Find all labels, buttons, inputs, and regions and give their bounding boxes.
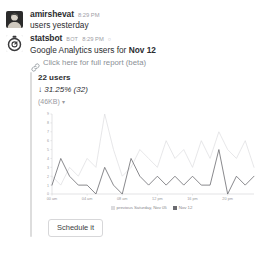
svg-text:5: 5 [47,148,49,152]
svg-text:3: 3 [47,166,49,170]
message-body: amirshevat 8:29 PM users yesterday [30,10,255,32]
chart-legend: previous Saturday, Nov 05 Nov 12 [48,205,255,210]
slack-message-pane: amirshevat 8:29 PM users yesterday stats… [0,0,263,270]
users-line-chart: 012345678900 am04 am08 am12 pm16 pm20 pm [36,110,255,206]
svg-text:20 pm: 20 pm [222,197,233,201]
message-author[interactable]: amirshevat [30,10,74,19]
bot-badge: BOT [66,36,78,42]
message-header: amirshevat 8:29 PM [30,10,255,19]
legend-label: previous Saturday, Nov 05 [117,205,167,210]
full-report-link-label: Click here for full report (beta) [43,58,146,67]
svg-text:08 am: 08 am [117,197,128,201]
link-icon [31,58,40,67]
message-author[interactable]: statsbot [30,34,62,43]
analytics-attachment: 22 users ↓ 31.25% (32) (46KB) ▾ 01234567… [30,72,255,236]
svg-text:2: 2 [47,175,49,179]
svg-text:6: 6 [47,139,49,143]
attachment-size-label: (46KB) [38,98,60,105]
message-row: statsbot BOT 8:29 PM ○ Google Analytics … [6,34,255,68]
chevron-down-icon[interactable]: ▾ [62,99,65,105]
statsbot-robot-avatar-icon [6,35,23,52]
attachment-title-prefix: Google Analytics users for [30,45,129,55]
stat-change: ↓ 31.25% (32) [38,84,255,96]
svg-text:1: 1 [47,184,49,188]
svg-text:9: 9 [47,112,49,116]
avatar[interactable] [6,11,23,28]
attachment-content: 22 users ↓ 31.25% (32) (46KB) ▾ 01234567… [38,72,255,236]
message-text: users yesterday [30,20,255,31]
message-options-icon[interactable]: ○ [108,36,111,42]
message-row: amirshevat 8:29 PM users yesterday [6,10,255,32]
svg-text:04 am: 04 am [82,197,93,201]
svg-text:4: 4 [47,157,49,161]
attachment-color-bar [30,72,32,236]
legend-swatch [111,206,115,210]
legend-item: Nov 12 [173,205,193,210]
attachment-title-date: Nov 12 [129,45,156,55]
stat-total-users: 22 users [38,72,255,84]
legend-item: previous Saturday, Nov 05 [111,205,167,210]
attachment-title: Google Analytics users for Nov 12 [30,45,255,56]
legend-label: Nov 12 [179,205,193,210]
full-report-link[interactable]: Click here for full report (beta) [31,58,255,67]
schedule-it-button[interactable]: Schedule it [48,219,103,237]
legend-swatch [173,206,177,210]
svg-text:16 pm: 16 pm [187,197,198,201]
svg-text:00 am: 00 am [47,197,58,201]
message-header: statsbot BOT 8:29 PM ○ [30,34,255,43]
svg-text:8: 8 [47,121,49,125]
line-chart-svg: 012345678900 am04 am08 am12 pm16 pm20 pm [36,110,258,206]
svg-text:7: 7 [47,130,49,134]
message-timestamp: 8:29 PM [78,12,100,18]
svg-text:12 pm: 12 pm [152,197,163,201]
message-body: statsbot BOT 8:29 PM ○ Google Analytics … [30,34,255,68]
attachment-actions: Schedule it [48,216,255,237]
avatar[interactable] [6,35,23,52]
message-timestamp: 8:29 PM [82,36,104,42]
attachment-size[interactable]: (46KB) ▾ [38,97,255,108]
user-photo-avatar-icon [6,11,23,28]
